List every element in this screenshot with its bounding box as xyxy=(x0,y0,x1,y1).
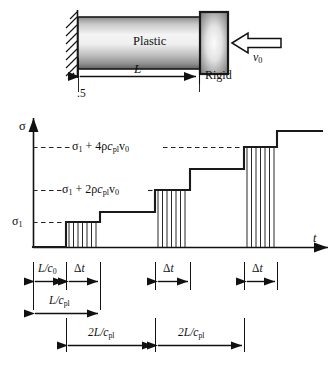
timeline-label-dt-2: Δt xyxy=(163,263,174,275)
top-v-sub: 0 xyxy=(125,145,129,154)
y-axis-label: σ xyxy=(19,120,26,133)
timeline-label-L-cpl: L/cpl xyxy=(49,295,70,308)
hatch-step-1 xyxy=(69,223,96,247)
top-plus: + 4ρ xyxy=(83,139,108,153)
figure-root xyxy=(0,0,336,375)
twoLcpl2-text: 2L/c xyxy=(178,326,198,338)
hatch-step-3 xyxy=(247,148,274,247)
level-label-top: σ1 + 4ρcplv0 xyxy=(72,140,129,154)
x-axis-label: t xyxy=(313,232,316,245)
timeline-label-dt-3: Δt xyxy=(252,263,263,275)
mid-plus: + 2ρ xyxy=(73,182,98,196)
fixed-support-hatching xyxy=(66,10,78,79)
sigma-subscript: 1 xyxy=(18,220,22,229)
timeline-label-2L-cpl-2: 2L/cpl xyxy=(178,327,205,340)
Lcpl-sub: pl xyxy=(64,299,70,308)
length-label: L xyxy=(134,62,141,75)
level-label-sigma1: σ1 xyxy=(12,215,23,229)
rigid-mass-block xyxy=(200,12,228,74)
timeline-label-2L-cpl-1: 2L/cpl xyxy=(88,327,115,340)
Lc0-text: L/c xyxy=(38,262,53,274)
Lcpl-text: L/c xyxy=(49,294,64,306)
mid-v-sub: 0 xyxy=(115,188,119,197)
scale-note-label: .5 xyxy=(77,88,86,100)
twoLcpl1-sub: pl xyxy=(108,331,114,340)
timeline-ticks xyxy=(34,262,278,352)
timeline-label-dt-1: Δt xyxy=(74,263,85,275)
twoLcpl2-sub: pl xyxy=(198,331,204,340)
dt1-t: t xyxy=(81,262,84,274)
Lc0-sub: 0 xyxy=(53,267,57,276)
top-diagram xyxy=(66,10,281,92)
hatch-step-2 xyxy=(158,191,185,247)
dt3-t: t xyxy=(259,262,262,274)
velocity-subscript: 0 xyxy=(258,56,262,65)
bar-material-label: Plastic xyxy=(133,35,166,48)
rigid-label: Rigid xyxy=(205,69,232,81)
velocity-label: v0 xyxy=(253,51,262,65)
level-label-mid: σ1 + 2ρcplv0 xyxy=(62,183,119,197)
timeline-label-L-c0: L/c0 xyxy=(38,263,57,276)
timeline-annotations xyxy=(34,262,278,352)
dt2-t: t xyxy=(170,262,173,274)
twoLcpl1-text: 2L/c xyxy=(88,326,108,338)
